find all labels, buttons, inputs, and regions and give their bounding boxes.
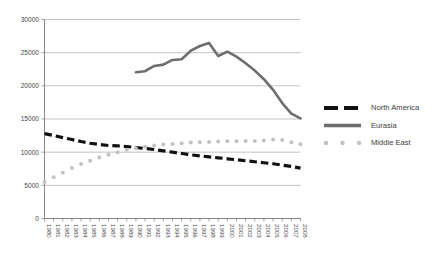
data-point <box>271 138 275 142</box>
data-point <box>262 139 266 143</box>
x-tick-label: 1988 <box>119 224 126 238</box>
x-tick-label: 1982 <box>64 224 71 238</box>
data-point <box>152 144 156 148</box>
series-north-america <box>45 134 301 169</box>
data-point <box>253 139 257 143</box>
data-point <box>225 139 229 143</box>
data-point <box>207 140 211 144</box>
data-point <box>88 159 92 163</box>
x-tick-label: 1990 <box>137 224 144 238</box>
data-point <box>280 138 284 142</box>
gridlines <box>45 20 301 219</box>
x-tick-label: 1998 <box>210 224 217 238</box>
data-point <box>171 142 175 146</box>
series-middle-east <box>43 138 303 184</box>
data-point <box>107 153 111 157</box>
y-tick-label: 10000 <box>21 149 40 156</box>
legend-label: North America <box>371 103 420 112</box>
data-point <box>79 162 83 166</box>
y-tick-label: 0 <box>35 215 39 222</box>
x-tick-label: 1995 <box>183 224 190 238</box>
data-point <box>43 180 47 184</box>
data-point <box>189 141 193 145</box>
line-chart: 050001000015000200002500030000 198019811… <box>0 0 436 259</box>
x-tick-label: 1980 <box>46 224 53 238</box>
x-tick-label: 2003 <box>256 224 263 238</box>
x-tick-label: 2006 <box>283 224 290 238</box>
x-tick-label: 2001 <box>238 224 245 238</box>
legend-item-eurasia[interactable]: Eurasia <box>324 121 398 130</box>
legend-marker <box>357 141 361 145</box>
x-tick-label: 1986 <box>101 224 108 238</box>
x-tick-label: 1985 <box>91 224 98 238</box>
data-point <box>299 142 303 146</box>
x-tick-label: 1987 <box>110 224 117 238</box>
chart-canvas: 050001000015000200002500030000 198019811… <box>0 0 436 259</box>
legend-marker <box>340 141 344 145</box>
x-tick-label: 1993 <box>165 224 172 238</box>
y-axis-tick-labels: 050001000015000200002500030000 <box>21 16 40 222</box>
x-tick-label: 2000 <box>229 224 236 238</box>
x-tick-label: 1989 <box>128 224 135 238</box>
data-point <box>116 150 120 154</box>
x-tick-label: 1994 <box>174 224 181 238</box>
legend-marker <box>324 141 328 145</box>
x-tick-label: 1997 <box>201 224 208 238</box>
legend-label: Eurasia <box>371 121 398 130</box>
chart-legend: North AmericaEurasiaMiddle East <box>324 103 420 147</box>
data-point <box>61 171 65 175</box>
x-tick-label: 1984 <box>82 224 89 238</box>
data-point <box>198 140 202 144</box>
series-eurasia <box>136 43 301 118</box>
data-point <box>216 140 220 144</box>
y-tick-label: 20000 <box>21 82 40 89</box>
data-point <box>52 175 56 179</box>
data-point <box>161 143 165 147</box>
x-tick-label: 1992 <box>155 224 162 238</box>
legend-item-north-america[interactable]: North America <box>324 103 420 112</box>
x-axis-tick-labels: 1980198119821983198419851986198719881989… <box>46 224 309 238</box>
data-series-layer <box>43 43 303 184</box>
data-point <box>244 139 248 143</box>
legend-label: Middle East <box>371 138 412 147</box>
y-tick-label: 25000 <box>21 49 40 56</box>
x-tick-label: 1996 <box>192 224 199 238</box>
legend-item-middle-east[interactable]: Middle East <box>324 138 412 147</box>
data-point <box>70 166 74 170</box>
x-tick-label: 1991 <box>146 224 153 238</box>
data-point <box>180 141 184 145</box>
data-point <box>97 155 101 159</box>
x-tick-label: 2007 <box>293 224 300 238</box>
x-tick-label: 2008 <box>302 224 309 238</box>
x-tick-label: 2004 <box>265 224 272 238</box>
data-point <box>125 148 129 152</box>
y-tick-label: 5000 <box>24 182 39 189</box>
data-point <box>235 139 239 143</box>
x-tick-label: 1981 <box>55 224 62 238</box>
data-point <box>143 145 147 149</box>
data-point <box>289 140 293 144</box>
x-tick-label: 1983 <box>73 224 80 238</box>
y-tick-label: 15000 <box>21 115 40 122</box>
data-point <box>134 146 138 150</box>
x-tick-label: 2002 <box>247 224 254 238</box>
x-tick-label: 1999 <box>219 224 226 238</box>
y-tick-label: 30000 <box>21 16 40 23</box>
x-tick-label: 2005 <box>274 224 281 238</box>
